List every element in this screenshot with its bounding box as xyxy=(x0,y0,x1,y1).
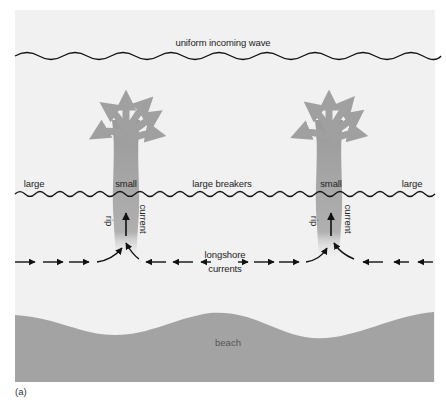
incoming-wave-line xyxy=(15,53,441,60)
label-current-left: current xyxy=(138,205,149,234)
label-small-left: small xyxy=(115,178,137,189)
label-current-right: current xyxy=(343,205,354,234)
label-beach: beach xyxy=(215,337,241,348)
label-small-right: small xyxy=(320,178,342,189)
label-longshore: longshore xyxy=(205,249,246,260)
breaker-wave-line xyxy=(15,192,435,197)
label-rip-left: rip xyxy=(104,216,115,226)
label-rip-right: rip xyxy=(309,216,320,226)
figure-caption: (a) xyxy=(15,386,27,397)
label-currents: currents xyxy=(208,263,242,274)
label-large-left: large xyxy=(24,178,45,189)
label-uniform-incoming-wave: uniform incoming wave xyxy=(175,37,270,48)
label-large-right: large xyxy=(402,178,423,189)
label-large-breakers: large breakers xyxy=(192,178,251,189)
